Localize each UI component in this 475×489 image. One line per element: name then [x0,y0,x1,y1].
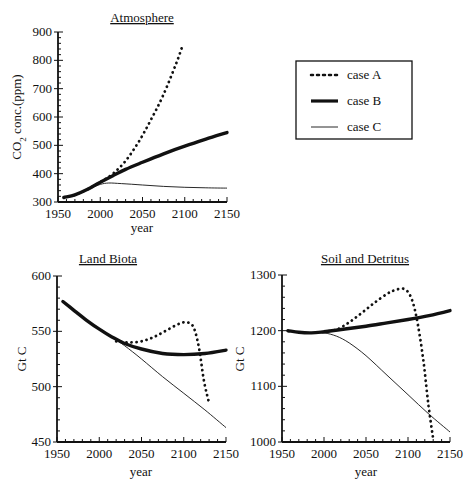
x-tick-label: 2050 [353,446,379,461]
y-tick-label: 300 [33,194,53,209]
land-biota-ylabel: Gt C [14,347,29,372]
soil-detritus-title: Soil and Detritus [321,251,409,266]
land-biota-xlabel: year [130,464,153,479]
x-tick-label: 2100 [395,446,421,461]
x-tick-label: 2150 [437,446,463,461]
atmosphere-lines [64,47,227,198]
y-tick-label: 1100 [250,378,276,393]
x-tick-label: 2050 [129,446,155,461]
x-tick-label: 2050 [130,206,156,221]
series-case-a [64,47,182,198]
y-tick-label: 500 [32,379,52,394]
x-tick-label: 2000 [311,446,337,461]
land-biota-lines [63,302,226,428]
y-tick-label: 900 [33,24,53,39]
y-tick-label: 400 [33,166,53,181]
atmosphere-ylabel: CO2 conc.(ppm) [9,74,28,159]
atmosphere-title: Atmosphere [110,10,174,25]
y-tick-label: 600 [33,109,53,124]
soil-detritus-ylabel: Gt C [232,347,247,372]
y-tick-label: 550 [32,323,52,338]
legend-label-case-a: case A [347,67,382,82]
x-tick-label: 2000 [86,446,112,461]
figure-svg: Atmosphere 19502000205021002150300400500… [0,0,475,489]
atmosphere-xlabel: year [131,220,154,235]
y-tick-label: 1000 [250,434,276,449]
legend-label-case-c: case C [347,119,381,134]
legend: case A case B case C [296,61,412,139]
x-tick-label: 2150 [214,206,240,221]
atmosphere-axes: 1950200020502100215030040050060070080090… [33,24,241,221]
land-biota-panel: Land Biota 19502000205021002150450500550… [14,251,239,479]
soil-detritus-xlabel: year [355,464,378,479]
figure: Atmosphere 19502000205021002150300400500… [0,0,475,489]
series-case-a [324,289,433,440]
x-tick-label: 2000 [87,206,113,221]
land-biota-title: Land Biota [79,251,137,266]
legend-label-case-b: case B [347,93,382,108]
series-case-b [63,302,226,355]
series-case-b [288,311,450,333]
y-tick-label: 600 [32,268,52,283]
y-tick-label: 700 [33,81,53,96]
soil-detritus-lines [288,289,450,440]
x-tick-label: 2100 [171,446,197,461]
atmosphere-panel: Atmosphere 19502000205021002150300400500… [9,10,240,235]
y-tick-label: 1200 [250,323,276,338]
soil-detritus-panel: Soil and Detritus 1950200020502100215010… [232,251,463,479]
x-tick-label: 2150 [213,446,239,461]
y-tick-label: 450 [32,434,52,449]
y-tick-label: 500 [33,137,53,152]
y-tick-label: 1300 [250,267,276,282]
y-tick-label: 800 [33,52,53,67]
x-tick-label: 2100 [172,206,198,221]
series-case-a [116,322,209,403]
land-biota-axes: 19502000205021002150450500550600 [32,268,240,461]
